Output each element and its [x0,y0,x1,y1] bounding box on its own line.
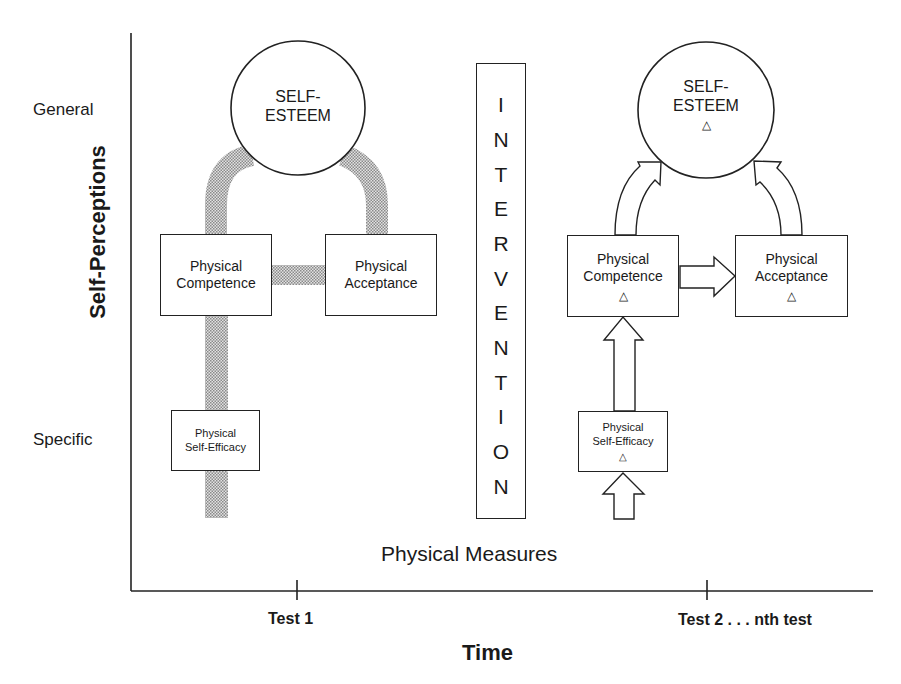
delta-icon: △ [787,290,796,302]
box-line2: Self-Efficacy [185,441,246,455]
box-line1: Physical [597,251,649,269]
test1-physical-self-efficacy-box: Physical Self-Efficacy [171,410,260,471]
test1-physical-competence-box: Physical Competence [160,234,272,316]
box-line2: Competence [176,275,255,293]
arrow-competence-to-self-esteem [615,162,661,235]
intervention-letter: I [498,93,504,117]
delta-icon: △ [619,290,628,302]
box-line1: Physical [355,258,407,276]
box-line1: Physical [765,251,817,269]
intervention-box: I N T E R V E N T I O N [476,63,526,519]
box-line1: Physical [190,258,242,276]
self-esteem-line2: ESTEEM [656,96,756,115]
level-specific-label: Specific [33,430,93,450]
intervention-letter: N [493,475,508,499]
delta-icon: △ [619,452,627,462]
box-line2: Self-Efficacy [593,435,654,449]
intervention-letter: I [498,405,504,429]
delta-icon: △ [656,119,756,131]
box-line2: Acceptance [344,275,417,293]
test2-physical-self-efficacy-box: Physical Self-Efficacy △ [578,411,668,472]
test1-physical-acceptance-box: Physical Acceptance [325,234,437,316]
self-esteem-line2: ESTEEM [248,106,348,125]
box-line1: Physical [195,427,236,441]
box-line1: Physical [603,421,644,435]
level-general-label: General [33,100,93,120]
arrow-competence-to-acceptance [680,257,735,296]
test2-self-esteem-text: SELF- ESTEEM △ [656,77,756,131]
x-tick-test1-label: Test 1 [268,610,313,628]
arrow-self-efficacy-to-competence [604,317,643,411]
intervention-letter: R [493,232,508,256]
intervention-letter: V [494,267,508,291]
x-axis-line [131,580,873,600]
arrow-input-to-self-efficacy [603,473,644,519]
diagram-graphics [0,0,901,684]
box-line2: Competence [583,268,662,286]
x-axis-title: Time [462,640,513,666]
intervention-letter: E [494,197,508,221]
arrow-acceptance-to-self-esteem [754,161,802,235]
box-line2: Acceptance [755,268,828,286]
test2-physical-competence-box: Physical Competence △ [567,235,679,317]
intervention-letter: N [493,128,508,152]
self-esteem-line1: SELF- [656,77,756,96]
test2-physical-acceptance-box: Physical Acceptance △ [735,235,848,317]
intervention-letter: N [493,336,508,360]
test1-self-esteem-text: SELF- ESTEEM [248,87,348,125]
intervention-letter: O [493,440,509,464]
intervention-letter: E [494,301,508,325]
y-axis-title: Self-Perceptions [85,145,111,319]
x-tick-test2-label: Test 2 . . . nth test [678,611,812,629]
physical-measures-label: Physical Measures [381,542,557,566]
intervention-letter: T [495,371,508,395]
intervention-letter: T [495,163,508,187]
self-esteem-line1: SELF- [248,87,348,106]
